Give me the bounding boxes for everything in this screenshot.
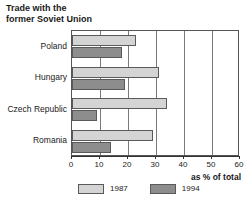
legend-item-1994: 1994 [150, 184, 200, 194]
x-tick [127, 156, 128, 159]
legend-swatch-1994 [150, 184, 176, 194]
x-tick-label: 50 [199, 160, 223, 170]
category-label: Czech Republic [0, 104, 67, 114]
chart-title: Trade with the former Soviet Union [6, 3, 156, 25]
chart-figure: Trade with the former Soviet Union as % … [0, 0, 247, 204]
bar-czech-republic-1994 [72, 110, 97, 121]
category-label: Hungary [0, 72, 67, 82]
category-label: Romania [0, 135, 67, 145]
legend-label-1994: 1994 [182, 184, 200, 194]
gridline [212, 31, 213, 155]
gridline [184, 31, 185, 155]
x-tick-label: 30 [143, 160, 167, 170]
bar-poland-1994 [72, 47, 122, 58]
bar-romania-1994 [72, 142, 111, 153]
bar-poland-1987 [72, 35, 136, 46]
legend-item-1987: 1987 [78, 184, 128, 194]
bar-hungary-1987 [72, 67, 159, 78]
category-label: Poland [0, 41, 67, 51]
x-tick [239, 156, 240, 159]
x-tick-label: 0 [59, 160, 83, 170]
legend-swatch-1987 [78, 184, 104, 194]
bar-romania-1987 [72, 130, 153, 141]
x-tick-label: 40 [171, 160, 195, 170]
x-tick-label: 20 [115, 160, 139, 170]
x-tick-label: 10 [87, 160, 111, 170]
bar-hungary-1994 [72, 79, 125, 90]
plot-area [71, 30, 239, 156]
bar-czech-republic-1987 [72, 98, 167, 109]
x-tick [155, 156, 156, 159]
x-tick [71, 156, 72, 159]
x-tick-label: 60 [227, 160, 247, 170]
x-tick [183, 156, 184, 159]
legend-label-1987: 1987 [110, 184, 128, 194]
gridline [156, 31, 157, 155]
x-tick [99, 156, 100, 159]
x-axis-label: as % of total [140, 172, 241, 182]
chart-legend: 19871994 [78, 184, 200, 194]
x-tick [211, 156, 212, 159]
